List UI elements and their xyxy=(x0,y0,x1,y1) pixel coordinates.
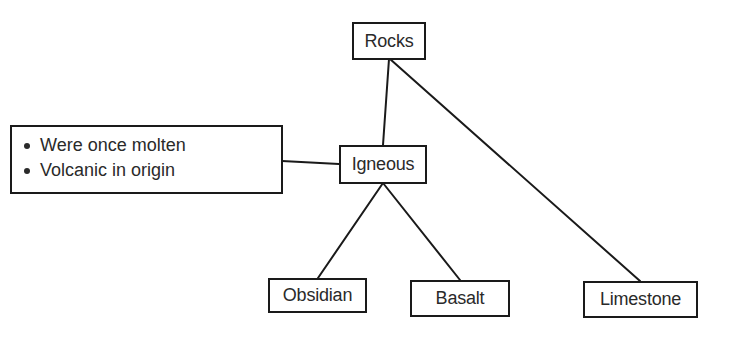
edge-rocks-limestone xyxy=(390,59,640,281)
bullet-icon xyxy=(24,143,30,149)
property-text: Volcanic in origin xyxy=(40,158,175,183)
node-obsidian: Obsidian xyxy=(268,278,367,313)
node-limestone-label: Limestone xyxy=(600,289,681,310)
property-item: Were once molten xyxy=(24,133,271,158)
bullet-icon xyxy=(24,168,30,174)
node-igneous: Igneous xyxy=(339,145,427,184)
node-obsidian-label: Obsidian xyxy=(283,285,352,306)
property-item: Volcanic in origin xyxy=(24,158,271,183)
node-limestone: Limestone xyxy=(583,281,698,318)
igneous-properties-callout: Were once molten Volcanic in origin xyxy=(10,125,283,194)
node-rocks-label: Rocks xyxy=(364,31,413,52)
edge-rocks-igneous xyxy=(383,59,389,145)
node-igneous-label: Igneous xyxy=(352,154,415,175)
node-rocks: Rocks xyxy=(352,22,426,60)
properties-list: Were once molten Volcanic in origin xyxy=(24,133,271,183)
edge-igneous-basalt xyxy=(383,183,460,280)
rock-classification-diagram: Rocks Were once molten Volcanic in origi… xyxy=(0,0,732,337)
node-basalt: Basalt xyxy=(410,280,510,317)
property-text: Were once molten xyxy=(40,133,186,158)
edge-callout-igneous xyxy=(282,161,339,164)
edge-igneous-obsidian xyxy=(318,183,383,278)
node-basalt-label: Basalt xyxy=(436,288,485,309)
